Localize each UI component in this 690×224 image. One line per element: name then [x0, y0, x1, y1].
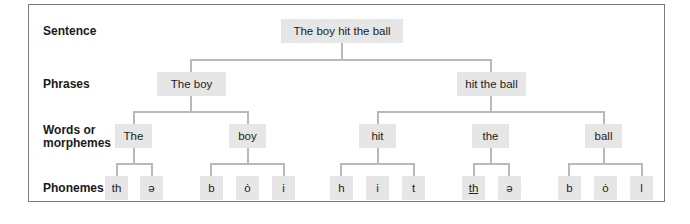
connector — [340, 163, 342, 176]
node-phrase-the-boy: The boy — [157, 72, 226, 96]
connector — [247, 111, 249, 124]
level-label-phonemes: Phonemes — [43, 182, 104, 195]
node-phoneme: i — [272, 176, 295, 200]
node-phrase-hit-the-ball: hit the ball — [457, 72, 526, 96]
level-label-words: Words or morphemes — [43, 124, 111, 150]
connector — [133, 111, 249, 113]
node-word-the: the — [472, 124, 509, 148]
connector — [190, 96, 192, 112]
node-phoneme: l — [630, 176, 653, 200]
node-word-ball: ball — [585, 124, 622, 148]
node-phoneme: i — [366, 176, 389, 200]
connector — [151, 163, 153, 176]
level-label-words-line2: morphemes — [43, 137, 111, 150]
connector — [490, 59, 492, 72]
connector — [377, 111, 379, 124]
node-phoneme: th — [462, 176, 485, 200]
connector — [133, 148, 135, 164]
node-phoneme: ȯ — [236, 176, 259, 200]
connector — [490, 148, 492, 164]
node-phoneme: t — [402, 176, 425, 200]
level-label-phrases: Phrases — [43, 78, 90, 91]
connector — [641, 163, 643, 176]
connector — [340, 163, 415, 165]
connector — [568, 163, 570, 176]
node-phoneme: ə — [140, 176, 163, 200]
node-phoneme: b — [200, 176, 223, 200]
connector — [603, 111, 605, 124]
node-phoneme: th — [105, 176, 128, 200]
connector — [283, 163, 285, 176]
connector — [413, 163, 415, 176]
node-word-boy: boy — [229, 124, 266, 148]
node-phoneme: h — [330, 176, 353, 200]
node-word-the: The — [115, 124, 152, 148]
level-label-sentence: Sentence — [43, 25, 96, 38]
connector — [116, 163, 118, 176]
node-phoneme: b — [558, 176, 581, 200]
connector — [473, 163, 475, 176]
connector — [568, 163, 643, 165]
connector — [210, 163, 285, 165]
connector — [603, 148, 605, 164]
connector — [190, 59, 492, 61]
connector — [473, 163, 510, 165]
node-phoneme: ə — [498, 176, 521, 200]
connector — [377, 111, 605, 113]
connector — [490, 96, 492, 112]
node-phoneme: ȯ — [594, 176, 617, 200]
node-sentence: The boy hit the ball — [281, 19, 403, 43]
connector — [133, 111, 135, 124]
connector — [247, 148, 249, 164]
connector — [116, 163, 153, 165]
connector — [377, 148, 379, 164]
connector — [508, 163, 510, 176]
node-word-hit: hit — [359, 124, 396, 148]
connector — [210, 163, 212, 176]
connector — [190, 59, 192, 72]
